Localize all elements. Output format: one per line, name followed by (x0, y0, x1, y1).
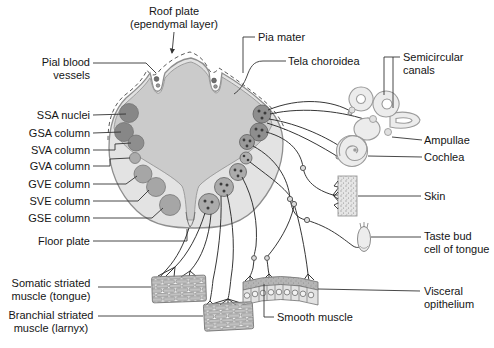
label-gve-column: GVE column (0, 178, 90, 191)
label-skin: Skin (424, 190, 445, 203)
label-tela-choroidea: Tela choroidea (288, 55, 360, 68)
cochlea-shape (337, 136, 368, 167)
label-pial-blood-vessels: Pial blood vessels (0, 56, 90, 82)
ssa-nucleus-shape (120, 104, 139, 123)
somatic-striated-muscle-illustration (152, 275, 207, 303)
leader-ampullae (392, 137, 422, 140)
branchial-striated-muscle-illustration (203, 302, 253, 332)
label-branchial-striated-muscle: Branchial striated muscle (larnyx) (2, 309, 100, 335)
label-taste-bud: Taste bud cell of tongue (424, 230, 489, 256)
inner-ear-illustration (337, 87, 421, 167)
label-sva-column: SVA column (0, 144, 90, 157)
label-somatic-striated-muscle: Somatic striated muscle (tongue) (2, 277, 100, 303)
label-semicircular-canals: Semicircular canals (403, 51, 464, 77)
label-ssa-nuclei: SSA nuclei (0, 109, 90, 122)
label-ampullae: Ampullae (424, 134, 470, 147)
label-cochlea: Cochlea (424, 151, 464, 164)
ampulla-shape (370, 116, 377, 123)
gse-column-shape (160, 195, 181, 216)
leader-visceral-epithelium (318, 289, 420, 291)
sve-column-shape (147, 178, 166, 197)
visceral-epithelium-illustration (243, 277, 318, 306)
label-gva-column: GVA column (0, 160, 90, 173)
label-gse-column: GSE column (0, 212, 90, 225)
leader-floor-plate (93, 229, 187, 241)
skin-illustration (334, 176, 357, 216)
leader-cochlea (368, 156, 422, 157)
label-gsa-column: GSA column (0, 127, 90, 140)
label-pia-mater: Pia mater (258, 31, 305, 44)
anatomy-diagram: Roof plate (ependymal layer) Pia mater T… (0, 0, 494, 348)
leader-pia-mater (243, 37, 255, 73)
ampulla-shape (385, 129, 392, 136)
leader-roof-plate (172, 32, 174, 53)
leader-pial-blood-vessels (93, 63, 156, 73)
label-visceral-epithelium: Visceral opithelium (424, 285, 474, 311)
label-smooth-muscle: Smooth muscle (277, 311, 353, 324)
label-roof-plate: Roof plate (ependymal layer) (99, 5, 249, 31)
label-sve-column: SVE column (0, 195, 90, 208)
gva-column-shape (130, 153, 141, 164)
taste-bud-illustration (358, 222, 371, 252)
semicircular-canal-2 (373, 91, 399, 117)
ampulla-shape (349, 107, 355, 113)
label-floor-plate: Floor plate (0, 235, 90, 248)
